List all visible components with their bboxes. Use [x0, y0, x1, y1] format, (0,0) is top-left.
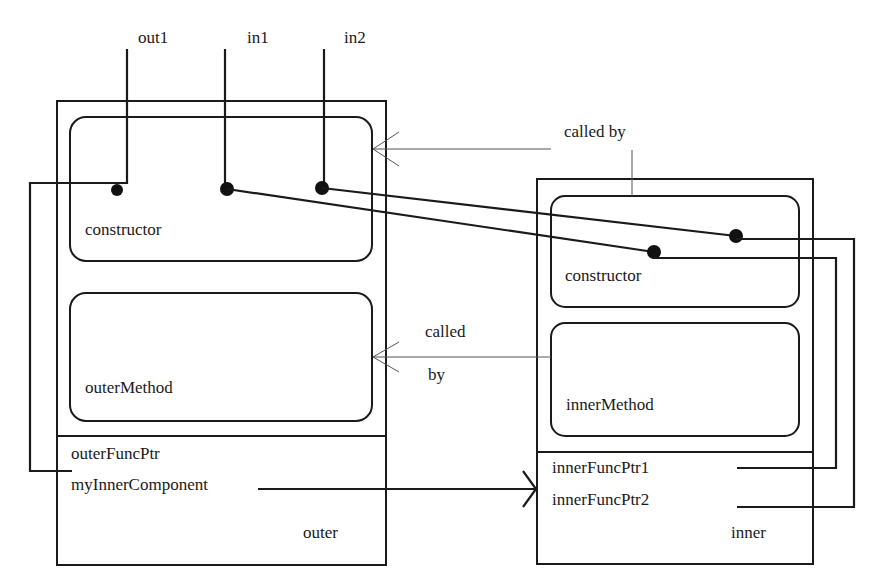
inner-constructor-block [551, 196, 799, 307]
called-by-mid-label-2: by [428, 365, 446, 384]
port-label-in2: in2 [344, 28, 366, 47]
connection-dot-inner-b [729, 229, 743, 243]
component-diagram: constructor outerMethod outerFuncPtr myI… [0, 0, 883, 585]
connection-dot-out1 [111, 184, 123, 196]
outer-method-label: outerMethod [85, 378, 173, 397]
inner-method-label: innerMethod [566, 395, 654, 414]
outer-field-outerFuncPtr: outerFuncPtr [71, 444, 160, 463]
outer-field-myInnerComponent: myInnerComponent [71, 475, 208, 494]
inner-field-innerFuncPtr1: innerFuncPtr1 [552, 458, 649, 477]
port-label-in1: in1 [247, 28, 269, 47]
wire-in1-to-inner-constructor [227, 189, 654, 252]
outer-method-block [70, 293, 372, 421]
called-by-top-label: called by [564, 122, 626, 141]
outer-component-name: outer [303, 523, 338, 542]
inner-constructor-label: constructor [565, 266, 642, 285]
inner-field-innerFuncPtr2: innerFuncPtr2 [552, 490, 649, 509]
inner-component-name: inner [731, 523, 766, 542]
inner-method-block [551, 323, 799, 436]
called-by-mid-label-1: called [425, 322, 466, 341]
port-label-out1: out1 [138, 28, 168, 47]
outer-constructor-label: constructor [85, 220, 162, 239]
outer-component-box [57, 101, 386, 565]
outer-component: constructor outerMethod outerFuncPtr myI… [57, 101, 386, 565]
